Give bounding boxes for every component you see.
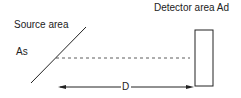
detector-area-label: Detector area Ad xyxy=(154,2,229,13)
arrowhead-right-icon xyxy=(186,85,194,89)
diagram-canvas xyxy=(0,0,241,98)
distance-label: D xyxy=(122,81,129,92)
arrowhead-left-icon xyxy=(58,85,66,89)
detector-rectangle xyxy=(195,30,213,86)
source-area-line xyxy=(31,27,86,83)
source-symbol-label: As xyxy=(16,46,28,57)
source-area-label: Source area xyxy=(14,19,68,30)
